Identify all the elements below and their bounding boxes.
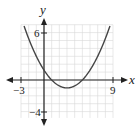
y-axis-label: y [38,2,46,17]
y-axis-down-arrow-icon [41,119,47,126]
parabola-graph: y x 6 −4 −3 9 [0,0,139,128]
x-tick-label-neg3: −3 [13,84,25,96]
x-tick-label-9: 9 [110,84,116,96]
x-axis-right-arrow-icon [121,77,128,83]
y-axis-up-arrow-icon [41,18,47,25]
y-tick-label-6: 6 [34,27,40,39]
y-tick-label-neg4: −4 [29,106,41,118]
x-axis-left-arrow-icon [6,77,13,83]
x-axis-label: x [128,72,135,87]
